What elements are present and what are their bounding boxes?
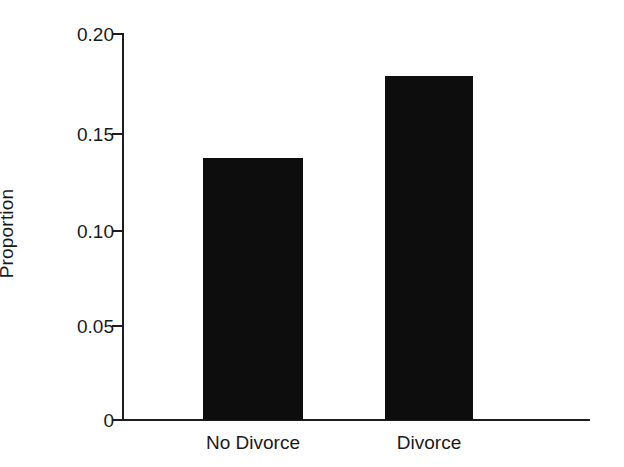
y-axis-label-text: Proportion: [0, 189, 18, 279]
y-tick-label: 0.05: [28, 317, 114, 336]
bar-no-divorce: [203, 158, 303, 420]
y-tick-label: 0: [28, 411, 114, 430]
y-tick-label-group: 0.20 0.15 0.10 0.05 0: [22, 0, 114, 467]
x-axis-line: [122, 419, 590, 421]
y-tick-label: 0.15: [28, 125, 114, 144]
x-tick-label-divorce: Divorce: [397, 432, 461, 454]
bar-divorce: [385, 76, 473, 420]
bar-chart-figure: Proportion 0.20 0.15 0.10 0.05 0 No Divo…: [0, 0, 624, 467]
x-tick-label-no-divorce: No Divorce: [206, 432, 300, 454]
y-tick-label: 0.10: [28, 222, 114, 241]
y-tick-label: 0.20: [28, 25, 114, 44]
y-axis-line: [122, 33, 124, 421]
